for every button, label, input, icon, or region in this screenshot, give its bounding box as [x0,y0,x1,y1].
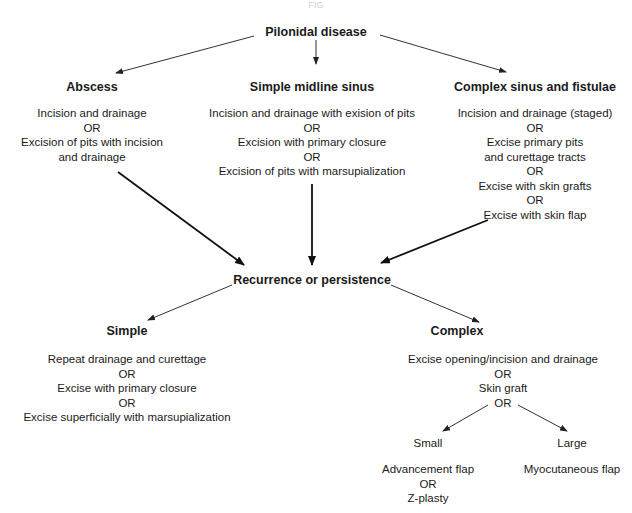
node-title: Abscess [21,80,163,94]
treatment-options: Repeat drainage and curettage OR Excise … [23,352,230,425]
option-text: Excise with primary closure [23,381,230,396]
option-text: Excise superficially with marsupializati… [23,410,230,425]
option-text: Skin graft [408,381,598,396]
arrow-recurrence-to-simple [148,285,232,320]
node-large: Large Myocutaneous flap [524,437,621,477]
option-text: Excision with primary closure [209,135,415,150]
arrow-root-to-complex [380,35,506,72]
node-simple-midline-sinus: Simple midline sinus Incision and draina… [209,80,415,179]
or-separator: OR [209,121,415,136]
node-abscess: Abscess Incision and drainage OR Excisio… [21,80,163,164]
node-title: Small [382,437,474,449]
or-separator: OR [209,150,415,165]
node-recurrence-or-persistence: Recurrence or persistence [233,273,391,287]
option-text: Incision and drainage [21,106,163,121]
option-text: and curettage tracts [454,150,616,165]
or-separator: OR [408,367,598,382]
node-title: Simple midline sinus [209,80,415,94]
root-node-pilonidal-disease: Pilonidal disease [265,25,366,39]
node-title: Large [524,437,621,449]
node-title: Complex [316,324,598,338]
option-text: Myocutaneous flap [524,462,621,477]
option-text: Excise opening/incision and drainage [408,352,598,367]
or-separator: OR [454,193,616,208]
node-title: Complex sinus and fistulae [454,80,616,94]
treatment-options: Myocutaneous flap [524,462,621,477]
node-small: Small Advancement flap OR Z-plasty [382,437,474,506]
option-text: and drainage [21,150,163,165]
treatment-options: Incision and drainage with exision of pi… [209,106,415,179]
option-text: Excise with skin flap [454,208,616,223]
or-separator: OR [382,477,474,492]
option-text: Incision and drainage with exision of pi… [209,106,415,121]
node-recurrence-complex: Complex Excise opening/incision and drai… [408,324,598,410]
option-text: Excise with skin grafts [454,179,616,194]
option-text: Excise primary pits [454,135,616,150]
arrow-complex-to-recurrence [381,220,488,263]
treatment-options: Incision and drainage OR Excision of pit… [21,106,163,164]
node-title: Simple [23,324,230,338]
option-text: Advancement flap [382,462,474,477]
or-separator: OR [23,367,230,382]
option-text: Incision and drainage (staged) [454,106,616,121]
option-text: Z-plasty [382,491,474,506]
treatment-options: Advancement flap OR Z-plasty [382,462,474,506]
arrow-abscess-to-recurrence [118,172,244,265]
arrow-recurrence-to-complex [391,285,479,322]
node-complex-sinus-and-fistulae: Complex sinus and fistulae Incision and … [454,80,616,222]
treatment-options: Excise opening/incision and drainage OR … [408,352,598,410]
or-separator: OR [454,164,616,179]
node-recurrence-simple: Simple Repeat drainage and curettage OR … [23,324,230,425]
or-separator: OR [21,121,163,136]
or-separator: OR [454,121,616,136]
option-text: Excision of pits with incision [21,135,163,150]
or-separator: OR [408,396,598,411]
or-separator: OR [23,396,230,411]
arrow-root-to-abscess [116,36,254,73]
figure-header-fragment: FIG [309,0,324,10]
treatment-options: Incision and drainage (staged) OR Excise… [454,106,616,222]
option-text: Repeat drainage and curettage [23,352,230,367]
option-text: Excision of pits with marsupialization [209,164,415,179]
